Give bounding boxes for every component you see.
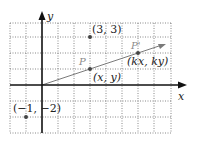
y-axis-arrow-icon [39, 11, 46, 20]
point-P-prime-label: (kx, ky) [127, 55, 168, 68]
x-axis-label: x [178, 90, 185, 103]
point-P-tag: P [78, 56, 86, 67]
y-axis-label: y [46, 10, 54, 23]
grid [10, 23, 171, 133]
point-P-marker [88, 67, 92, 71]
point-P-prime-tag: P' [130, 40, 140, 51]
point-neg1-neg2-marker [24, 115, 28, 119]
x-axis-arrow-icon [178, 82, 187, 89]
point-neg1-neg2-label: (−1, −2) [13, 102, 61, 115]
coordinate-diagram: x y (3, 3) P (x, y) P' (kx, ky) (−1, −2) [0, 0, 197, 147]
point-3-3-label: (3, 3) [92, 23, 122, 36]
ray-arrowhead-icon [158, 44, 166, 49]
point-P-label: (x, y) [93, 71, 121, 84]
